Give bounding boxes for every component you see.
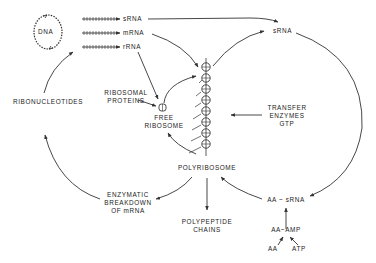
label-transfer-enzymes: TRANSFER ENZYMES GTP: [262, 104, 312, 128]
arrow-srna-to-srna: [148, 18, 278, 22]
arrow-ribonucleotides-to-dna: [44, 52, 73, 93]
label-polyribosome: POLYRIBOSOME: [172, 164, 242, 172]
label-atp: ATP: [292, 245, 306, 253]
label-rrna: rRNA: [123, 43, 141, 51]
arrow-polyribosome-to-free-ribosome: [168, 133, 196, 154]
label-mrna: mRNA: [123, 29, 144, 37]
arrow-breakdown-to-ribonucleotides: [45, 135, 100, 199]
arrow-polyribosome-to-breakdown: [156, 177, 192, 199]
label-srna-top: sRNA: [123, 15, 142, 23]
arrow-free-ribosome-to-polyribosome: [164, 76, 196, 103]
label-polypeptide-chains: POLYPEPTIDE CHAINS: [177, 218, 237, 234]
label-enzymatic-breakdown: ENZYMATIC BREAKDOWN OF mRNA: [100, 191, 156, 215]
label-srna-right: sRNA: [273, 27, 292, 35]
polyribosome-chain-icon: [189, 58, 210, 156]
label-ribosomal-proteins: RIBOSOMAL PROTEINS: [96, 89, 156, 105]
free-ribosome-icon: [159, 104, 166, 111]
transcription-arrow-mrna: [82, 31, 120, 35]
label-aa-amp: AA~AMP: [264, 226, 308, 234]
label-dna: DNA: [38, 28, 53, 36]
transcription-arrow-srna: [82, 17, 120, 21]
arrow-polyribosome-to-srna: [213, 31, 264, 66]
transcription-arrow-rrna: [82, 45, 120, 49]
arrow-aa-to-aa-amp: [278, 237, 283, 245]
label-ribonucleotides: RIBONUCLEOTIDES: [13, 98, 83, 106]
arrow-aa-srna-to-polyribosome: [221, 177, 262, 199]
label-free-ribosome: FREE RIBOSOME: [139, 114, 189, 130]
label-aa-srna: AA ~ sRNA: [258, 196, 314, 204]
arrow-atp-to-aa-amp: [290, 237, 298, 245]
label-aa: AA: [268, 245, 278, 253]
arrow-mrna-to-polyribosome: [152, 34, 198, 67]
